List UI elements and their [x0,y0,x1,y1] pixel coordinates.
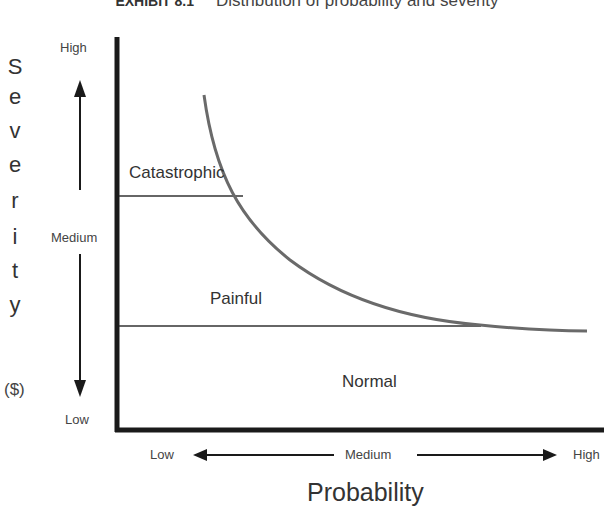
y-title-letter: y [0,292,30,318]
x-tick-low: Low [150,447,174,462]
region-normal-label: Normal [342,372,397,392]
y-title-letter: e [0,152,30,178]
x-left-arrowhead-icon [193,449,207,461]
y-up-arrowhead-icon [74,80,86,97]
x-tick-medium: Medium [345,447,391,462]
region-painful-label: Painful [210,289,262,309]
region-catastrophic-label: Catastrophic [129,163,224,183]
y-unit-label: ($) [4,380,25,400]
y-title-letter: i [0,224,30,250]
y-title-letter: S [0,54,30,80]
y-title-letter: v [0,118,30,144]
y-tick-low: Low [65,412,89,427]
y-tick-high: High [60,40,87,55]
y-down-arrowhead-icon [74,380,86,397]
y-tick-medium: Medium [51,230,97,245]
y-title-letter: e [0,84,30,110]
x-tick-high: High [573,447,600,462]
y-title-letter: t [0,258,30,284]
x-axis-title: Probability [307,478,424,507]
x-right-arrowhead-icon [543,449,557,461]
chart-canvas [0,0,614,518]
y-title-letter: r [0,188,30,214]
